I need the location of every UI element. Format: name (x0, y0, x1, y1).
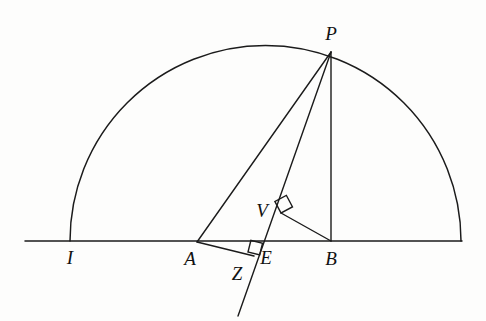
point-label-p: P (324, 23, 337, 44)
point-label-i: I (66, 247, 75, 268)
segments-group (197, 52, 331, 316)
point-label-a: A (182, 248, 196, 269)
segment-v-b (281, 213, 331, 241)
point-labels-group: PVIAZEB (66, 23, 337, 284)
line-p-through-v-to-z-extended (238, 52, 331, 316)
geometry-figure: PVIAZEB (0, 0, 486, 321)
point-label-b: B (325, 248, 337, 269)
geometry-canvas: PVIAZEB (0, 0, 486, 321)
point-label-v: V (256, 200, 270, 221)
point-label-z: Z (232, 263, 243, 284)
segment-a-to-z (197, 242, 254, 256)
point-label-e: E (259, 247, 272, 268)
